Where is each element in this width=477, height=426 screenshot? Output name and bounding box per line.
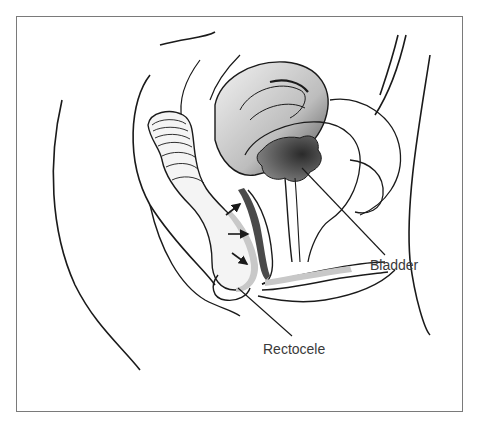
bladder-label: Bladder <box>370 257 418 273</box>
rectocele-illustration <box>0 0 477 426</box>
urethra-inner <box>295 178 300 262</box>
rectocele-label: Rectocele <box>263 341 325 357</box>
urethra <box>285 178 292 262</box>
vaginal-wall-shading <box>265 266 352 286</box>
rectocele-leader-line <box>238 288 292 336</box>
